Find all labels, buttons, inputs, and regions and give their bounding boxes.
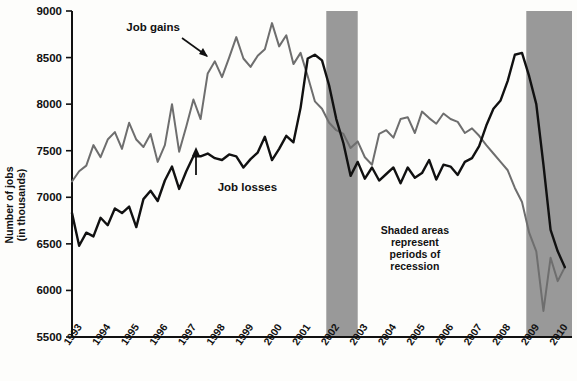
job-losses-label: Job losses	[218, 181, 277, 193]
y-tick-label: 7500	[36, 145, 62, 157]
y-tick-label: 6500	[36, 238, 62, 250]
y-tick-label: 8000	[36, 98, 62, 110]
y-tick-label: 9000	[36, 5, 62, 17]
recession-note-line-3: periods of	[389, 248, 440, 260]
y-axis-title-line2: (in thousands)	[15, 169, 27, 241]
recession-band-2	[526, 11, 572, 337]
jobs-gains-losses-chart: 55006000650070007500800085009000 1993199…	[0, 0, 577, 381]
y-tick-label: 7000	[36, 191, 62, 203]
y-axis-title-line1: Number of jobs	[3, 166, 15, 243]
chart-background	[0, 0, 577, 381]
recession-note-line-2: represent	[391, 236, 439, 248]
y-tick-label: 8500	[36, 52, 62, 64]
recession-note-line-4: recession	[390, 260, 439, 272]
y-tick-label: 5500	[36, 331, 62, 343]
job-gains-label: Job gains	[126, 21, 180, 33]
recession-note-line-1: Shaded areas	[381, 224, 449, 236]
y-tick-label: 6000	[36, 284, 62, 296]
recession-band-1	[326, 11, 357, 337]
y-axis-title-group: Number of jobs (in thousands)	[3, 166, 27, 243]
chart-canvas: 55006000650070007500800085009000 1993199…	[0, 0, 577, 381]
